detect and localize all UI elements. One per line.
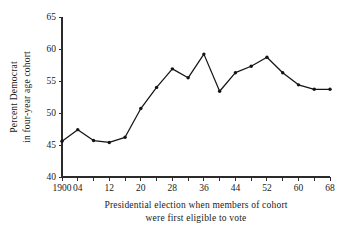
data-point (171, 67, 174, 70)
data-point (186, 76, 189, 79)
y-tick-label: 45 (47, 140, 57, 150)
y-axis-title-line1: Percent Democrat (9, 61, 19, 133)
data-point (297, 83, 300, 86)
data-point (60, 139, 63, 142)
data-point (281, 71, 284, 74)
y-tick-label: 40 (47, 172, 57, 182)
data-point (249, 65, 252, 68)
x-axis-title-line1: Presidential election when members of co… (104, 200, 287, 210)
data-point (265, 56, 268, 59)
y-tick-label: 55 (47, 76, 57, 86)
x-tick-label: 68 (325, 183, 335, 193)
data-point (155, 86, 158, 89)
data-point (139, 107, 142, 110)
x-tick-label: 12 (105, 183, 115, 193)
data-point (313, 88, 316, 91)
x-tick-label: 36 (199, 183, 209, 193)
x-tick-label: 04 (73, 183, 83, 193)
x-tick-label: 1900 (53, 183, 72, 193)
chart-figure: 404550556065 1900041220283644526068 Pres… (0, 0, 342, 228)
x-axis-title-line2: were first eligible to vote (146, 213, 247, 223)
data-point (76, 128, 79, 131)
data-point (234, 71, 237, 74)
line-chart: 404550556065 1900041220283644526068 Pres… (0, 0, 342, 228)
x-tick-label: 44 (231, 183, 241, 193)
y-axis-title-line2: in four-year age cohort (22, 51, 32, 143)
y-tick-label: 65 (47, 12, 57, 22)
data-point (218, 90, 221, 93)
x-tick-label: 20 (136, 183, 146, 193)
data-point (123, 136, 126, 139)
data-point (92, 139, 95, 142)
x-tick-label: 60 (294, 183, 304, 193)
data-point (328, 88, 331, 91)
y-tick-label: 50 (47, 108, 57, 118)
x-tick-label: 52 (262, 183, 272, 193)
data-point (202, 52, 205, 55)
x-tick-label: 28 (168, 183, 178, 193)
y-tick-label: 60 (47, 44, 57, 54)
data-point (108, 141, 111, 144)
